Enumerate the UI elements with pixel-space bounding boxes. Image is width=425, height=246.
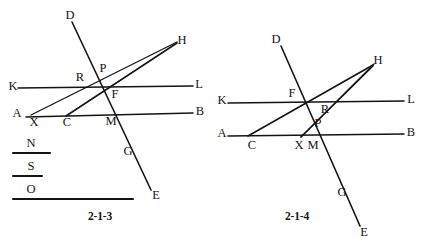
point-label-M: M <box>105 114 116 128</box>
point-label-R: R <box>76 70 85 84</box>
point-label-P: P <box>315 116 322 130</box>
point-label-O: O <box>26 182 35 196</box>
point-label-L: L <box>407 92 415 106</box>
line-XH <box>31 42 177 115</box>
point-label-D: D <box>271 32 280 46</box>
figure-2-1-4: D H K L F R P A B C X M G E 2-1-4 <box>217 32 415 239</box>
point-label-N: N <box>26 136 35 150</box>
point-label-P: P <box>100 61 107 75</box>
point-label-K: K <box>8 79 17 93</box>
point-label-C: C <box>63 115 71 129</box>
point-label-K: K <box>217 93 226 107</box>
figure-sheet: D H K L R P F A B X C M G E N S O 2-1-3 <box>0 0 425 246</box>
line-CH <box>248 65 373 136</box>
point-label-G: G <box>123 144 132 158</box>
point-label-H: H <box>373 53 382 67</box>
point-label-F: F <box>289 86 296 100</box>
point-label-R: R <box>321 102 330 116</box>
figure-caption-2-1-3: 2-1-3 <box>88 210 112 222</box>
point-label-F: F <box>112 87 119 101</box>
point-label-A: A <box>217 126 226 140</box>
line-KL <box>18 86 193 88</box>
point-label-D: D <box>65 8 74 22</box>
line-DE <box>72 22 151 190</box>
line-AB <box>228 134 404 136</box>
point-label-X: X <box>294 138 303 152</box>
figure-2-1-3: D H K L R P F A B X C M G E N S O 2-1-3 <box>8 8 204 222</box>
geometry-figures-canvas: D H K L R P F A B X C M G E N S O 2-1-3 <box>0 0 425 246</box>
point-label-M: M <box>307 138 318 152</box>
point-label-L: L <box>195 77 203 91</box>
point-label-A: A <box>12 106 21 120</box>
line-KL <box>228 101 404 103</box>
point-label-E: E <box>360 225 368 239</box>
point-label-C: C <box>248 138 256 152</box>
point-label-G: G <box>337 185 346 199</box>
point-label-X: X <box>29 115 38 129</box>
point-label-B: B <box>407 125 415 139</box>
figure-caption-2-1-4: 2-1-4 <box>285 210 309 222</box>
point-label-S: S <box>28 159 35 173</box>
point-label-B: B <box>196 104 204 118</box>
point-label-H: H <box>177 33 186 47</box>
point-label-E: E <box>152 188 160 202</box>
